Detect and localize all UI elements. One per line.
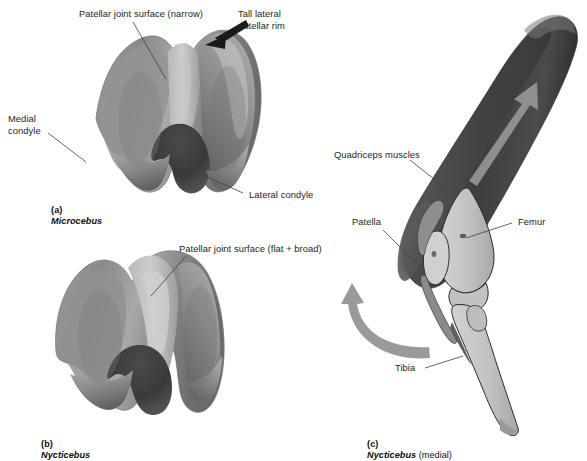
clipped-caption-line	[22, 448, 582, 458]
label-patella: Patella	[352, 216, 381, 228]
panel-a-specimen	[96, 30, 261, 193]
label-tall-lateral-rim-line1: Tall lateral	[238, 8, 281, 20]
panel-b-specimen	[56, 251, 225, 415]
caption-a-prefix: (a)	[51, 205, 62, 215]
label-medial-condyle-line1: Medial	[8, 113, 36, 125]
femur-foramen	[460, 234, 466, 238]
label-medial-condyle-line2: condyle	[8, 125, 41, 137]
rotation-arrow	[341, 283, 430, 358]
caption-a-taxon: Microcebus	[51, 216, 102, 226]
label-patellar-surface-broad: Patellar joint surface (flat + broad)	[179, 243, 322, 255]
femur-a-shadow-medial	[118, 72, 162, 168]
femur-b-shadow-lateral	[183, 286, 217, 386]
femur-a-shadow-lateral	[210, 66, 246, 170]
femur-b-shadow-medial	[78, 290, 122, 382]
label-tall-lateral-rim-line2: patellar rim	[238, 20, 285, 32]
leader-medial-condyle-a	[48, 133, 86, 162]
label-patellar-surface-narrow: Patellar joint surface (narrow)	[79, 8, 203, 20]
label-tibia: Tibia	[395, 362, 415, 374]
label-lateral-condyle: Lateral condyle	[249, 189, 313, 201]
label-quadriceps: Quadriceps muscles	[334, 149, 420, 161]
patella-marking	[432, 251, 437, 257]
leader-tibia	[425, 356, 463, 368]
label-femur: Femur	[518, 216, 545, 228]
caption-panel-a: (a) Microcebus	[46, 194, 102, 227]
